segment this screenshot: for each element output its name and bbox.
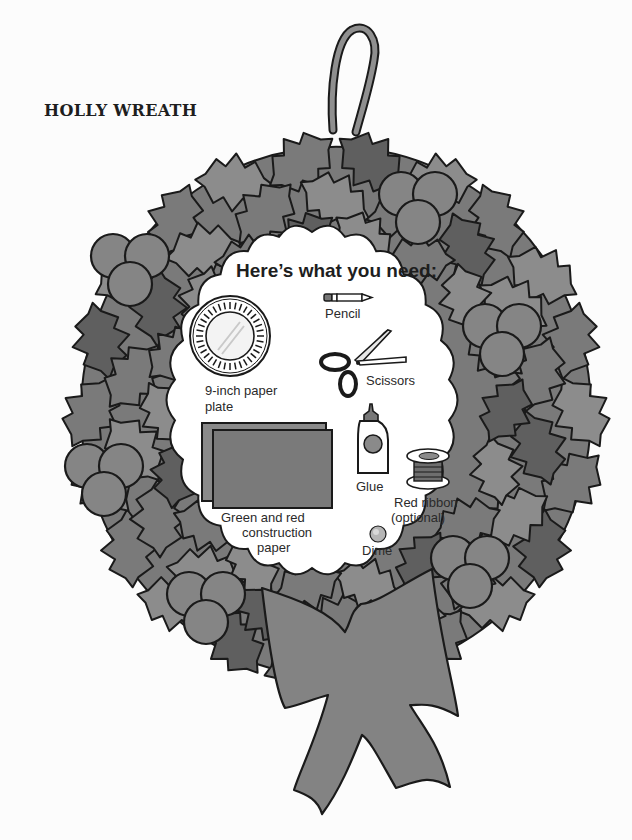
holly-berry — [82, 472, 126, 516]
item-label-ribbon-2: (optional) — [391, 510, 445, 525]
wreath-illustration: Here’s what you need: 9-inch paper plate… — [0, 0, 632, 840]
paper-plate-icon — [190, 296, 270, 376]
item-label-glue: Glue — [356, 479, 383, 494]
dime-icon — [370, 526, 386, 542]
item-label-dime: Dime — [362, 543, 392, 558]
holly-berry — [108, 262, 152, 306]
item-label-plate-1: 9-inch paper — [205, 383, 278, 398]
item-label-plate-2: plate — [205, 399, 233, 414]
hanger-loop — [332, 28, 375, 132]
craft-page: HOLLY WREATH Here’s what you need: 9-inc… — [0, 0, 632, 840]
holly-berry — [396, 200, 440, 244]
item-label-scissors: Scissors — [366, 373, 416, 388]
item-label-paper-2: construction — [242, 525, 312, 540]
item-label-paper-1: Green and red — [221, 510, 305, 525]
needs-heading: Here’s what you need: — [236, 260, 437, 281]
item-label-pencil: Pencil — [325, 306, 361, 321]
red-bow — [262, 569, 458, 814]
pencil-icon — [324, 294, 372, 301]
item-label-ribbon-1: Red ribbon — [394, 495, 458, 510]
holly-berry — [480, 332, 524, 376]
item-label-paper-3: paper — [257, 540, 291, 555]
construction-paper-icon — [202, 423, 332, 508]
holly-berry — [448, 564, 492, 608]
holly-berry — [184, 600, 228, 644]
